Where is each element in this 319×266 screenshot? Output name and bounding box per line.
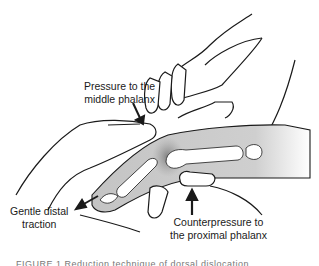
label-line: Counterpressure to — [170, 216, 267, 229]
label-line: Gentle distal — [10, 205, 68, 218]
arrow-pressure-middle-icon — [133, 103, 144, 124]
label-line: Pressure to the — [84, 80, 155, 93]
arrow-counterpressure-icon — [187, 190, 197, 215]
label-line: the proximal phalanx — [170, 229, 267, 242]
label-gentle-distal-traction: Gentle distal traction — [10, 205, 68, 230]
label-counterpressure-proximal-phalanx: Counterpressure to the proximal phalanx — [170, 216, 267, 241]
label-line: traction — [10, 218, 68, 231]
figure-caption-partial: FIGURE 1 Reduction technique of dorsal d… — [16, 259, 249, 266]
label-line: middle phalanx — [84, 93, 155, 106]
medical-illustration-figure: Pressure to the middle phalanx Gentle di… — [0, 0, 319, 266]
examiner-upper-hand — [145, 14, 295, 138]
label-pressure-middle-phalanx: Pressure to the middle phalanx — [84, 80, 155, 105]
